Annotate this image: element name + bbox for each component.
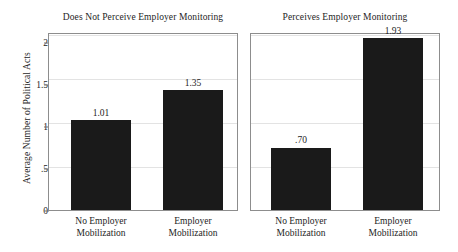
gridline-1_5 — [49, 79, 237, 80]
x-category-label-right-0-line1: No Employer — [275, 216, 326, 228]
panel-does-not-perceive-monitoring: Does Not Perceive Employer Monitoring 1.… — [48, 33, 238, 211]
bar-right-employer-mobilization — [363, 38, 423, 210]
bar-value-right-employer-mobilization: 1.93 — [385, 26, 402, 36]
bar-right-no-employer-mobilization — [271, 148, 331, 210]
panel-left-plot-area: 1.01 1.35 — [49, 34, 237, 210]
x-category-label-left-0-line1: No Employer — [75, 216, 126, 228]
gridline-2 — [49, 35, 237, 36]
gridline-2 — [251, 35, 439, 36]
x-category-label-right-0: No Employer Mobilization — [275, 216, 326, 239]
x-category-label-right-0-line2: Mobilization — [275, 228, 326, 240]
x-category-label-left-1-line1: Employer — [168, 216, 217, 228]
x-category-label-left-1: Employer Mobilization — [168, 216, 217, 239]
x-category-label-left-0: No Employer Mobilization — [75, 216, 126, 239]
panel-right-title: Perceives Employer Monitoring — [251, 12, 439, 22]
panel-perceives-monitoring: Perceives Employer Monitoring .70 1.93 N… — [250, 33, 440, 211]
x-category-label-right-1: Employer Mobilization — [368, 216, 417, 239]
x-category-label-right-1-line2: Mobilization — [368, 228, 417, 240]
panel-left-title: Does Not Perceive Employer Monitoring — [49, 12, 237, 22]
x-category-label-left-0-line2: Mobilization — [75, 228, 126, 240]
bar-left-no-employer-mobilization — [71, 120, 131, 210]
x-category-label-left-1-line2: Mobilization — [168, 228, 217, 240]
bar-value-right-no-employer-mobilization: .70 — [295, 135, 307, 145]
bar-left-employer-mobilization — [163, 90, 223, 210]
bar-value-left-employer-mobilization: 1.35 — [185, 78, 202, 88]
bar-chart-figure: Average Number of Political Acts 0 .5 1 … — [0, 0, 458, 252]
bar-value-left-no-employer-mobilization: 1.01 — [93, 108, 110, 118]
x-category-label-right-1-line1: Employer — [368, 216, 417, 228]
y-axis-ticks: 0 .5 1 1.5 2 — [22, 0, 48, 252]
panel-right-plot-area: .70 1.93 — [251, 34, 439, 210]
